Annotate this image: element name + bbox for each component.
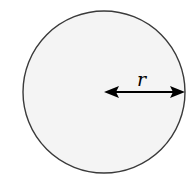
diagram-canvas: r <box>0 0 194 184</box>
circle-diagram: r <box>0 0 194 184</box>
